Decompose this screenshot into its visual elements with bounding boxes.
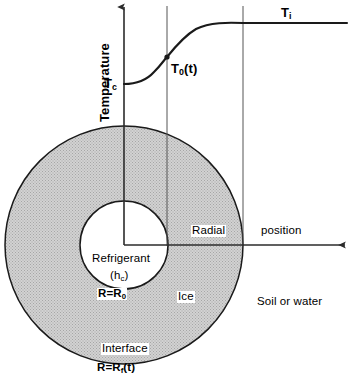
label-ice: Ice [177,291,195,303]
ice-annulus [0,0,351,383]
label-refrigerant-coefficient-subscript: c [120,274,124,283]
label-interface: Interface [101,343,149,355]
label-t0-suffix: (t) [184,61,197,76]
label-inner-radius-subscript: 0 [122,292,126,301]
label-interface-radius-subscript: f [121,366,124,375]
label-interface-radius: R=Rf(t) [97,362,135,374]
label-inner-radius: R=R0 [97,288,127,300]
label-t0-base: T [171,61,179,76]
label-t0: T0(t) [171,62,197,75]
label-refrigerant: Refrigerant [92,253,150,265]
label-ti-base: T [281,5,289,20]
label-refrigerant-coefficient: (hc) [110,270,128,282]
interface-temperature-point [164,54,169,59]
figure-drawing [0,0,351,383]
label-refrigerant-coefficient-close: ) [124,269,128,281]
label-inner-radius-prefix: R=R [98,287,122,299]
label-interface-radius-prefix: R=R [97,361,121,373]
label-ti-subscript: i [289,11,292,21]
label-refrigerant-coefficient-open: (h [110,269,120,281]
label-soil-or-water: Soil or water [257,296,322,308]
label-ti: Ti [281,6,292,19]
label-t0-subscript: 0 [179,67,184,77]
x-axis-label-radial: Radial [191,225,226,237]
figure-container: Temperature Tc T0(t) Ti Radial position … [0,0,351,383]
label-tc-subscript: c [112,82,117,92]
label-interface-radius-suffix: (t) [123,361,135,373]
x-axis-label-position: position [261,225,301,237]
label-tc: Tc [104,77,117,90]
label-tc-base: T [104,76,112,91]
